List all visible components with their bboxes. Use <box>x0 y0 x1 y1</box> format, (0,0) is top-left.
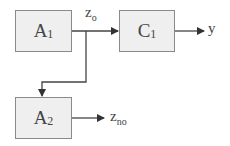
block-a1: A1 <box>15 10 72 52</box>
signal-zo: zo <box>85 4 97 23</box>
signal-y-main: y <box>208 20 216 36</box>
signal-zno-sub: no <box>117 116 127 127</box>
signal-zno-main: z <box>110 108 117 124</box>
signal-zno: zno <box>110 108 127 127</box>
block-c1-label: C <box>138 20 151 42</box>
block-c1-sub: 1 <box>150 27 156 42</box>
block-a2-label: A <box>34 107 48 129</box>
block-a2: A2 <box>15 97 72 139</box>
block-c1: C1 <box>119 10 175 52</box>
signal-zo-main: z <box>85 4 92 20</box>
block-a1-label: A <box>34 20 48 42</box>
signal-zo-sub: o <box>92 12 97 23</box>
block-a1-sub: 1 <box>47 27 53 42</box>
block-a2-sub: 2 <box>47 114 53 129</box>
signal-y: y <box>208 20 216 37</box>
